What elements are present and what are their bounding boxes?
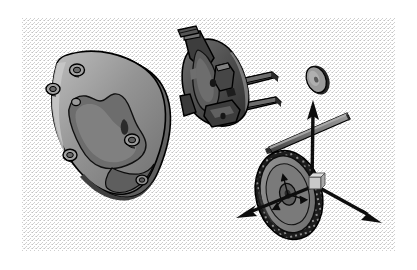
axis-shaft-up [312,112,313,183]
housing-hole [220,113,225,119]
mounting-boss [72,98,81,105]
exploded-assembly-figure: Exploded assembly diagram Grayscale tech… [0,0,417,270]
housing-pad [190,68,197,80]
origin-cube [309,173,325,189]
mounting-boss [70,64,85,77]
diagram-canvas [0,0,417,270]
housing-hole [210,79,216,87]
mounting-boss [136,175,148,185]
